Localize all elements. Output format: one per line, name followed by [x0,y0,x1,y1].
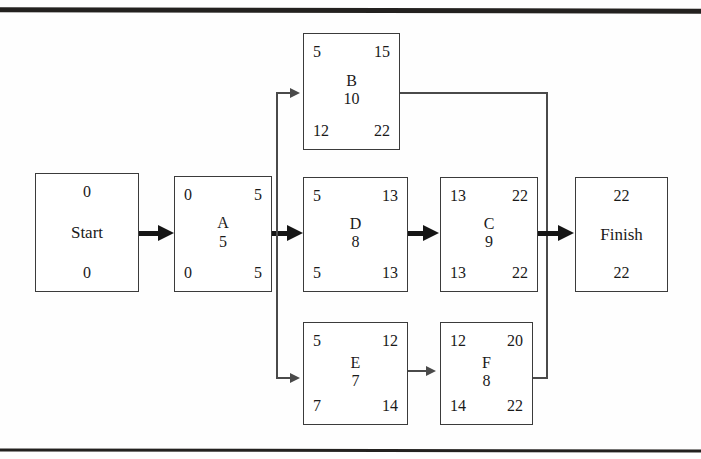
node-start-latest-start: 0 [83,265,91,281]
node-a-duration: 5 [175,233,271,252]
node-c-earliest-start: 13 [450,188,466,204]
node-e-latest-start: 7 [313,398,321,414]
bottom-horizontal-rule [0,448,701,452]
node-start-late-row: 0 [36,265,138,281]
node-e-label: E [304,354,407,373]
node-f-label: F [441,354,532,373]
node-c-body: C9 [441,215,537,253]
edge-a-to-b-arrowhead [290,88,300,98]
node-a-label: A [175,214,271,233]
node-finish[interactable]: 22Finish22 [575,177,668,292]
node-e-latest-finish: 14 [382,398,398,414]
network-diagram-canvas: 0Start0 05A505 515B101222 513D8513 1322C… [0,0,701,459]
node-d-early-row: 513 [304,188,407,204]
node-finish-body: Finish [576,224,667,244]
node-finish-latest-start: 22 [614,265,630,281]
node-b-latest-start: 12 [313,123,329,139]
node-start[interactable]: 0Start0 [35,173,139,292]
node-e-late-row: 714 [304,398,407,414]
node-e[interactable]: 512E7714 [303,322,408,425]
node-b-late-row: 1222 [304,123,399,139]
node-a-latest-start: 0 [184,265,192,281]
node-f-late-row: 1422 [441,398,532,414]
node-e-body: E7 [304,354,407,392]
node-d-latest-start: 5 [313,265,321,281]
edge-branch-bus-vertical [276,93,278,378]
node-finish-late-row: 22 [576,265,667,281]
node-finish-earliest-start: 22 [614,188,630,204]
edge-b-to-merge-horizontal [400,92,548,94]
node-e-duration: 7 [304,373,407,392]
node-a-body: A5 [175,214,271,252]
node-c[interactable]: 1322C91322 [440,177,538,292]
node-c-latest-start: 13 [450,265,466,281]
node-a[interactable]: 05A505 [174,176,272,292]
edge-c-to-finish-arrowhead [558,225,574,241]
node-b-early-row: 515 [304,44,399,60]
node-e-early-row: 512 [304,333,407,349]
node-d-late-row: 513 [304,265,407,281]
node-f-earliest-start: 12 [450,333,466,349]
node-b-earliest-start: 5 [313,44,321,60]
node-start-earliest-start: 0 [83,184,91,200]
node-start-body: Start [36,222,138,242]
node-f-latest-start: 14 [450,398,466,414]
edge-f-to-merge-horizontal [533,377,548,379]
node-d-earliest-finish: 13 [382,188,398,204]
edge-a-to-d-arrowhead [287,225,303,241]
node-a-earliest-finish: 5 [254,187,262,203]
node-c-latest-finish: 22 [512,265,528,281]
node-b-label: B [304,72,399,91]
node-c-late-row: 1322 [441,265,537,281]
node-d-earliest-start: 5 [313,188,321,204]
node-e-earliest-finish: 12 [382,333,398,349]
node-a-early-row: 05 [175,187,271,203]
node-d-latest-finish: 13 [382,265,398,281]
node-b-earliest-finish: 15 [374,44,390,60]
edge-start-to-a-line [139,231,159,236]
node-b-duration: 10 [304,91,399,110]
node-b-latest-finish: 22 [374,123,390,139]
node-start-early-row: 0 [36,184,138,200]
node-f-latest-finish: 22 [507,398,523,414]
node-start-label: Start [36,222,138,242]
edge-e-to-f-arrowhead [426,366,436,376]
top-horizontal-rule [0,7,701,14]
node-c-earliest-finish: 22 [512,188,528,204]
edge-start-to-a-arrowhead [158,225,174,241]
node-f[interactable]: 1220F81422 [440,322,533,425]
node-e-earliest-start: 5 [313,333,321,349]
node-c-early-row: 1322 [441,188,537,204]
node-f-early-row: 1220 [441,333,532,349]
node-f-body: F8 [441,354,532,392]
node-finish-label: Finish [576,224,667,244]
edge-d-to-c-arrowhead [423,225,439,241]
node-b-body: B10 [304,72,399,110]
node-a-earliest-start: 0 [184,187,192,203]
node-f-earliest-finish: 20 [507,333,523,349]
node-d-body: D8 [304,215,407,253]
node-d-duration: 8 [304,234,407,253]
node-b[interactable]: 515B101222 [303,33,400,150]
node-a-late-row: 05 [175,265,271,281]
node-f-duration: 8 [441,373,532,392]
node-a-latest-finish: 5 [254,265,262,281]
node-c-duration: 9 [441,234,537,253]
node-finish-early-row: 22 [576,188,667,204]
node-c-label: C [441,215,537,234]
node-d[interactable]: 513D8513 [303,177,408,292]
node-d-label: D [304,215,407,234]
edge-a-to-e-arrowhead [290,373,300,383]
